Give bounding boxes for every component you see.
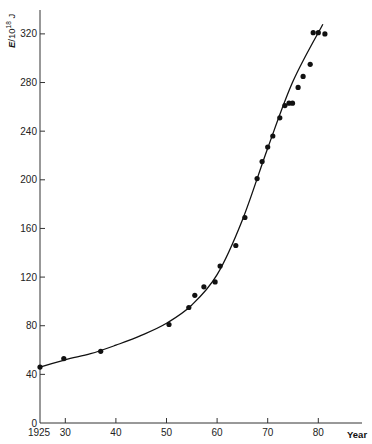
data-point <box>192 293 197 298</box>
y-tick-label: 80 <box>26 320 38 331</box>
y-axis-label: E/1018 J <box>5 14 17 48</box>
x-tick-label: 1925 <box>28 427 51 438</box>
x-tick-label: 60 <box>212 427 224 438</box>
x-axis-label: Year <box>347 429 367 440</box>
data-point <box>316 30 321 35</box>
data-point <box>296 85 301 90</box>
x-tick-label: 50 <box>161 427 173 438</box>
data-point <box>301 74 306 79</box>
x-tick-label: 30 <box>60 427 72 438</box>
data-point <box>260 159 265 164</box>
y-tick-label: 240 <box>20 126 37 137</box>
data-point <box>242 215 247 220</box>
y-tick-label: 320 <box>20 28 37 39</box>
y-tick-label: 40 <box>26 369 38 380</box>
data-point <box>37 365 42 370</box>
data-point <box>322 31 327 36</box>
data-point <box>201 284 206 289</box>
data-point <box>265 144 270 149</box>
data-point <box>233 243 238 248</box>
data-point <box>270 133 275 138</box>
data-point <box>166 322 171 327</box>
data-point <box>98 349 103 354</box>
x-tick-label: 70 <box>262 427 274 438</box>
data-points <box>37 30 327 370</box>
data-point <box>213 279 218 284</box>
data-point <box>311 30 316 35</box>
data-point <box>277 115 282 120</box>
data-point <box>290 101 295 106</box>
data-point <box>186 305 191 310</box>
data-point <box>255 176 260 181</box>
data-point <box>308 62 313 67</box>
ticks: 040801201602002402803201925304050607080 <box>20 28 324 438</box>
energy-consumption-chart: 040801201602002402803201925304050607080 … <box>0 0 372 444</box>
y-tick-label: 160 <box>20 223 37 234</box>
x-tick-label: 80 <box>313 427 325 438</box>
y-tick-label: 120 <box>20 272 37 283</box>
x-tick-label: 40 <box>110 427 122 438</box>
plot-area: 040801201602002402803201925304050607080 … <box>0 0 372 444</box>
axes <box>40 10 362 423</box>
y-tick-label: 280 <box>20 77 37 88</box>
y-tick-label: 200 <box>20 174 37 185</box>
data-point <box>218 264 223 269</box>
data-point <box>61 356 66 361</box>
fitted-curve <box>40 24 323 367</box>
